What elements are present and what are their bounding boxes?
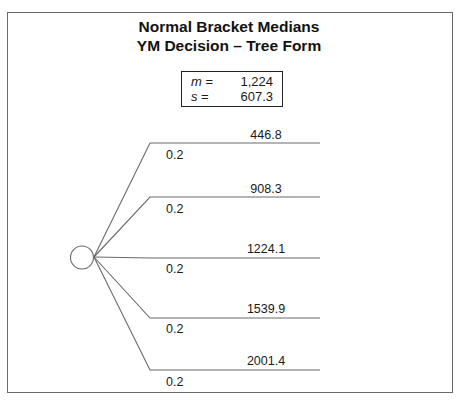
branch-value-3: 1224.1 [236, 242, 296, 256]
branch-probability-2: 0.2 [166, 202, 183, 216]
branch-line-1 [94, 143, 320, 257]
branch-line-3 [94, 257, 320, 258]
decision-tree [0, 0, 458, 400]
branch-probability-4: 0.2 [166, 322, 183, 336]
branch-probability-1: 0.2 [166, 148, 183, 162]
branch-value-2: 908.3 [236, 182, 296, 196]
branch-value-5: 2001.4 [236, 354, 296, 368]
chance-node-icon [71, 246, 94, 269]
branch-value-1: 446.8 [236, 128, 296, 142]
branch-value-4: 1539.9 [236, 302, 296, 316]
branch-probability-3: 0.2 [166, 262, 183, 276]
branch-probability-5: 0.2 [166, 375, 183, 389]
